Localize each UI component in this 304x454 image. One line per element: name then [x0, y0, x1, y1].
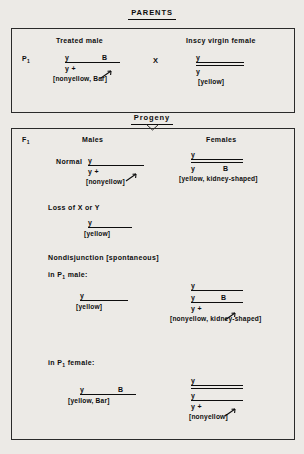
column-heading-females: Females [206, 136, 236, 143]
chromosome-rule-lower [191, 400, 243, 401]
genotype-row-bottom: y + [191, 304, 261, 313]
allele-bottom-left: y + [191, 402, 202, 411]
section-title-nondisjunction: Nondisjunction [spontaneous] [48, 254, 159, 261]
allele-bottom-left: y + [65, 64, 76, 73]
allele-top-left: y [88, 218, 92, 227]
genotype-row-top: y B [65, 53, 123, 62]
chromosome-rule [80, 300, 128, 301]
chromosome-rule [80, 394, 136, 395]
genotype-p1-male: y B y + [nonyellow, Bar] [65, 53, 123, 84]
phenotype-f1-nondisj-male: [yellow] [76, 302, 128, 312]
allele-bottom-left: y + [191, 304, 202, 313]
allele-top-left: y [191, 376, 195, 385]
genotype-row-top: y [191, 150, 258, 159]
allele-top-left: y [80, 291, 84, 300]
chromosome-rule-lower [191, 302, 243, 303]
genotype-row-top: y [88, 156, 144, 165]
allele-top-right: B [118, 385, 123, 394]
section-title-normal: Normal [56, 158, 82, 165]
attached-x-rule [191, 159, 243, 163]
phenotype-f1-normal-female: [yellow, kidney-shaped] [179, 174, 258, 184]
phenotype-p1-female: [yellow] [198, 77, 254, 87]
allele-mid-right: B [223, 164, 228, 173]
chromosome-rule [88, 227, 132, 228]
attached-x-rule [191, 385, 243, 389]
genotype-row-mid: y B [191, 164, 258, 173]
subsection-title-p1-female: in P1 female: [48, 359, 95, 368]
subsection-title-p1-male: in P1 male: [48, 271, 88, 280]
allele-top-left: y [65, 53, 69, 62]
genotype-f1-p1female-male: y B [yellow, Bar] [80, 385, 136, 406]
progeny-banner: Progeny [0, 113, 304, 125]
section-title-loss: Loss of X or Y [48, 204, 100, 211]
allele-top-left: y [88, 156, 92, 165]
allele-top-left: y [196, 53, 200, 62]
chromosome-rule-upper [191, 290, 243, 291]
progeny-banner-label: Progeny [131, 113, 173, 125]
column-heading-males: Males [82, 136, 103, 143]
allele-mid-left: y + [88, 167, 99, 176]
allele-bottom-left: y [196, 67, 200, 76]
chromosome-rule [65, 62, 120, 63]
phenotype-f1-loss-male: [yellow] [84, 229, 132, 239]
allele-mid-left: y [191, 293, 195, 302]
cross-symbol: X [153, 56, 158, 65]
genotype-row-top: y [88, 218, 132, 227]
genotype-row-top: y [80, 291, 128, 300]
genotype-f1-loss-male: y [yellow] [88, 218, 132, 239]
genotype-f1-nondisj-female: y y B y + [nonyellow, kidney-shaped] [191, 281, 261, 324]
genotype-row-mid: y B [191, 293, 261, 302]
genotype-f1-normal-male: y y + [nonyellow] [88, 156, 144, 187]
allele-top-left: y [191, 281, 195, 290]
phenotype-f1-nondisj-female: [nonyellow, kidney-shaped] [170, 314, 261, 324]
phenotype-p1-male: [nonyellow, Bar] [53, 74, 123, 84]
genotype-row-mid: y [191, 391, 243, 400]
f1-generation-label: F1 [22, 136, 30, 145]
chromosome-rule [88, 165, 144, 166]
allele-mid-left: y [191, 164, 195, 173]
allele-top-left: y [80, 385, 84, 394]
allele-mid-left: y [191, 391, 195, 400]
figure-root: PARENTS Treated male Inscy virgin female… [0, 0, 304, 454]
phenotype-f1-normal-male: [nonyellow] [86, 177, 144, 187]
genotype-row-top: y [196, 53, 254, 62]
p1-generation-label: P1 [22, 55, 30, 64]
genotype-f1-normal-female: y y B [yellow, kidney-shaped] [191, 150, 258, 184]
genotype-row-bottom: y [196, 67, 254, 76]
allele-top-left: y [191, 150, 195, 159]
allele-mid-right: B [221, 293, 226, 302]
attached-x-rule [196, 62, 244, 66]
genotype-f1-nondisj-male: y [yellow] [80, 291, 128, 312]
genotype-row-top: y [191, 281, 261, 290]
genotype-row-bottom: y + [65, 64, 123, 73]
phenotype-f1-p1female-male: [yellow, Bar] [68, 396, 136, 406]
inscy-female-heading: Inscy virgin female [186, 37, 256, 44]
parents-banner-label: PARENTS [128, 8, 176, 20]
genotype-row-mid: y + [88, 167, 144, 176]
parents-banner: PARENTS [0, 8, 304, 20]
phenotype-f1-p1female-female: [nonyellow] [189, 412, 243, 422]
genotype-row-top: y [191, 376, 243, 385]
genotype-row-top: y B [80, 385, 136, 394]
genotype-p1-female: y y [yellow] [196, 53, 254, 87]
treated-male-heading: Treated male [56, 37, 103, 44]
genotype-f1-p1female-female: y y y + [nonyellow] [191, 376, 243, 422]
allele-top-right: B [102, 53, 107, 62]
genotype-row-bottom: y + [191, 402, 243, 411]
